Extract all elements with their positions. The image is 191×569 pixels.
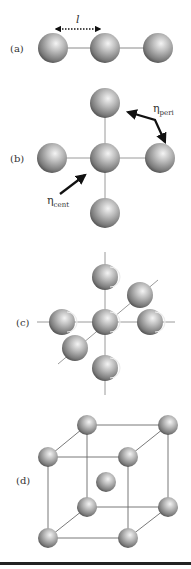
corner-sphere xyxy=(38,528,58,548)
sphere-bottom xyxy=(90,198,120,228)
panel-b-label: (b) xyxy=(10,153,24,164)
eta-peri-label: ηperi xyxy=(153,102,175,117)
panel-d: (d) xyxy=(16,415,178,548)
corner-sphere xyxy=(77,415,97,435)
sphere-left xyxy=(37,143,67,173)
panel-c: (c) xyxy=(16,252,175,395)
corner-sphere xyxy=(158,415,178,435)
corner-sphere xyxy=(118,528,138,548)
sphere-front xyxy=(62,335,88,361)
panel-a: (a) l xyxy=(10,13,173,63)
panel-a-label: (a) xyxy=(10,43,24,54)
panel-d-label: (d) xyxy=(16,475,30,486)
sphere xyxy=(90,33,120,63)
panel-b: (b) ηperi ηcent xyxy=(10,88,175,228)
bottom-rule xyxy=(0,562,191,565)
corner-sphere xyxy=(38,447,58,467)
panel-c-label: (c) xyxy=(16,317,30,328)
distance-label: l xyxy=(76,13,80,26)
sphere-right xyxy=(145,143,175,173)
sphere xyxy=(38,33,68,63)
body-center-sphere xyxy=(96,472,116,492)
corner-sphere xyxy=(118,447,138,467)
sphere xyxy=(143,33,173,63)
corner-sphere xyxy=(158,497,178,517)
sphere-back xyxy=(127,282,153,308)
eta-cent-label: ηcent xyxy=(47,194,69,209)
sphere-top xyxy=(90,88,120,118)
cent-arrow xyxy=(60,175,85,194)
figure-canvas: (a) l (b) ηperi ηcent (c) xyxy=(0,0,191,569)
sphere-center xyxy=(90,143,120,173)
corner-sphere xyxy=(77,497,97,517)
